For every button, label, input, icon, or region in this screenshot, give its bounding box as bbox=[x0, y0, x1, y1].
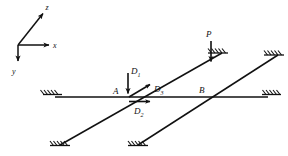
joint-label-b: B bbox=[199, 85, 205, 95]
axis-label-x: x bbox=[52, 41, 57, 50]
load-p: P bbox=[205, 29, 212, 62]
diagram-canvas: z x y bbox=[0, 0, 288, 156]
structural-diagram-figure: z x y bbox=[0, 0, 288, 156]
member-diagonal-upper bbox=[60, 53, 222, 145]
coordinate-axes: z x y bbox=[11, 3, 57, 76]
axis-label-y: y bbox=[11, 67, 16, 76]
load-p-label: P bbox=[205, 29, 212, 39]
displacement-d3-label: D3 bbox=[153, 84, 164, 96]
member-diagonal-lower bbox=[138, 55, 278, 145]
displacement-d3: D3 bbox=[129, 84, 164, 97]
axis-z-arrow bbox=[18, 14, 43, 46]
frame-members bbox=[55, 53, 278, 145]
displacement-d1: D1 bbox=[128, 66, 141, 94]
joint-label-a: A bbox=[112, 86, 119, 96]
support-horizontal-right bbox=[262, 90, 281, 95]
axis-label-z: z bbox=[45, 3, 50, 12]
displacement-d1-label: D1 bbox=[130, 66, 141, 78]
support-diag-lower-top bbox=[264, 51, 284, 56]
displacement-d2-label: D2 bbox=[133, 106, 144, 118]
support-horizontal-left bbox=[41, 90, 63, 95]
support-diag-lower-bottom bbox=[128, 141, 148, 146]
